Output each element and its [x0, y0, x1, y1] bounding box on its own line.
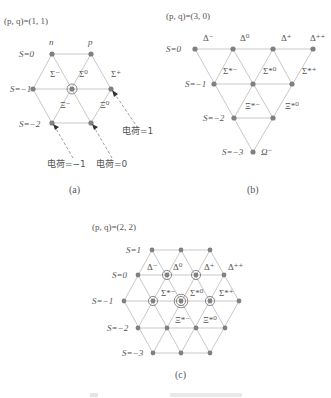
s-label: S=0 [19, 49, 35, 59]
sigma-label: Σ*⁰ [263, 66, 277, 76]
particle-label: Ξ⁻ [60, 100, 71, 110]
delta-label: Δ⁺⁺ [228, 262, 244, 272]
diagram-c: (p, q)=(2, 2) [92, 222, 244, 381]
particle-label: Σ⁺ [111, 69, 121, 79]
s-label: S=−1 [92, 296, 113, 306]
s-label: S=−3 [122, 348, 144, 358]
sigma-label: Σ*⁰ [190, 288, 204, 298]
s-label: S=0 [166, 44, 182, 54]
s-label: S=−1 [10, 84, 31, 94]
charge-label: 电荷=1 [122, 125, 153, 136]
delta-label: Δ⁰ [240, 33, 250, 43]
baryon-multiplet-figure: (p, q)=(1, 1) n p S=0 S=−1 [0, 0, 331, 398]
s-label: S=−3 [222, 147, 244, 157]
delta-label: Δ⁺⁺ [310, 33, 326, 43]
particle-label: Σ⁻ [50, 69, 60, 79]
xi-label: Ξ*⁻ [245, 101, 260, 111]
diagram-c-title: (p, q)=(2, 2) [92, 222, 136, 232]
diagram-a: (p, q)=(1, 1) n p S=0 S=−1 [4, 16, 153, 196]
particle-label: Ξ⁰ [100, 100, 110, 110]
delta-label: Δ⁻ [147, 262, 158, 272]
cutoff-figure-caption [90, 393, 242, 397]
s-label: S=0 [112, 270, 128, 280]
label-n: n [49, 37, 54, 47]
diagram-b: (p, q)=(3, 0) Δ⁻ Δ⁰ Δ⁺ Δ⁺⁺ [166, 11, 326, 196]
diagram-a-title: (p, q)=(1, 1) [4, 16, 48, 26]
s-label: S=1 [126, 245, 141, 255]
s-label: S=−2 [203, 113, 225, 123]
xi-label: Ξ*⁰ [203, 315, 217, 325]
delta-label: Δ⁺ [204, 262, 215, 272]
label-p: p [87, 37, 93, 47]
delta-label: Δ⁺ [281, 33, 292, 43]
charge-label: 电荷=0 [96, 158, 128, 169]
diagram-b-title: (p, q)=(3, 0) [166, 11, 210, 21]
sigma-label: Σ*⁻ [223, 66, 238, 76]
charge-label: 电荷=−1 [47, 158, 86, 169]
xi-label: Ξ*⁻ [175, 315, 190, 325]
delta-label: Δ⁰ [173, 262, 183, 272]
particle-label: Σ⁰ [79, 69, 88, 79]
s-label: S=−2 [107, 323, 129, 333]
caption-a: (a) [69, 184, 80, 196]
s-label: S=−1 [185, 79, 206, 89]
delta-label: Δ⁻ [203, 33, 214, 43]
sigma-label: Σ*⁻ [161, 288, 176, 298]
caption-c: (c) [175, 369, 186, 381]
caption-b: (b) [247, 184, 259, 196]
sigma-label: Σ*⁺ [302, 66, 317, 76]
xi-label: Ξ*⁰ [285, 101, 299, 111]
sigma-label: Σ*⁺ [219, 288, 234, 298]
s-label: S=−2 [19, 119, 41, 129]
omega-label: Ω⁻ [261, 147, 273, 157]
